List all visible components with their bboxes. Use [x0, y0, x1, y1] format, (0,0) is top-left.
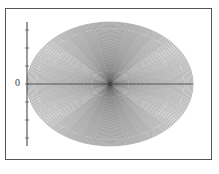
figure-root: 0: [0, 0, 219, 174]
origin-tick-label: 0: [15, 77, 20, 89]
ellipse-plot-canvas: [0, 0, 219, 174]
